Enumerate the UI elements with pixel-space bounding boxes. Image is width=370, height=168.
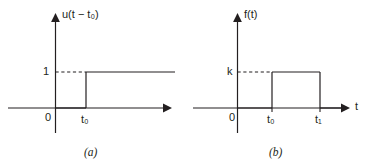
panel-b-plot [185,0,370,168]
panel-b: f(t) k 0 t₀ t₁ t (b) [185,0,370,168]
origin-label: 0 [229,112,235,123]
x-tick-label-t0: t₀ [81,114,89,125]
step-function-curve [56,72,176,108]
panel-a: u(t − t₀) 1 0 t₀ (a) [0,0,185,168]
pulse-function-curve [238,72,344,108]
y-axis-label: f(t) [244,9,257,20]
panel-caption: (a) [84,146,97,158]
origin-label: 0 [45,112,51,123]
level-label: 1 [43,66,49,77]
y-axis [51,13,60,133]
x-axis [8,104,172,113]
panel-a-plot [0,0,185,168]
x-axis-label: t [355,101,358,112]
panel-caption: (b) [269,146,282,158]
level-label: k [227,66,233,77]
figure-container: u(t − t₀) 1 0 t₀ (a) [0,0,370,168]
x-tick-label-t1: t₁ [315,114,322,125]
y-axis-label: u(t − t₀) [62,9,99,20]
x-tick-label-t0: t₀ [267,114,275,125]
